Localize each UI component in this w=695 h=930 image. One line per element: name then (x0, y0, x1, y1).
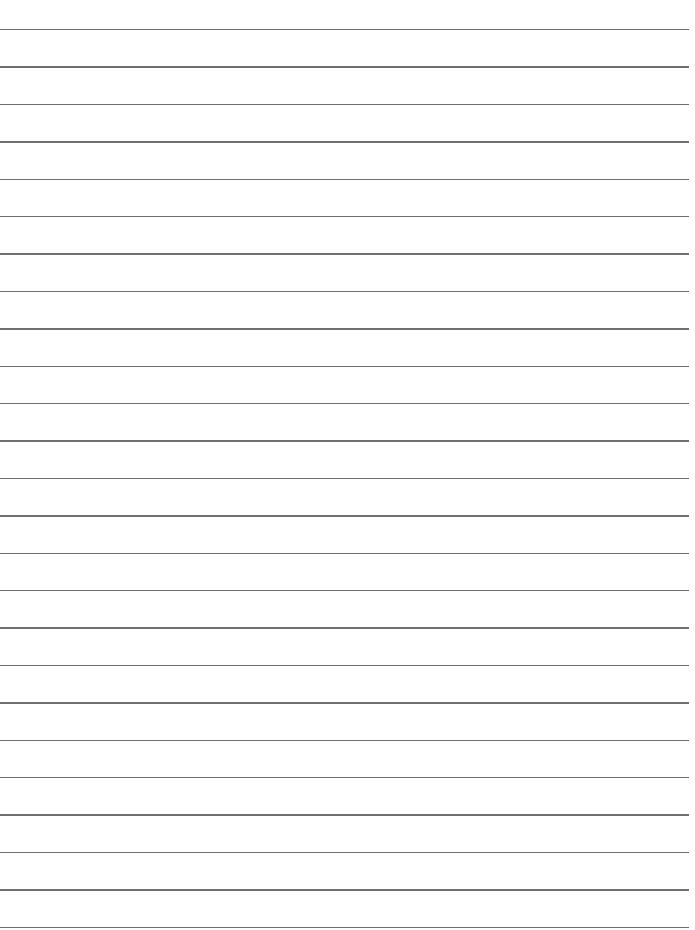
ruled-line (0, 852, 689, 853)
ruled-line (0, 179, 689, 180)
lined-paper-sheet (0, 0, 695, 930)
ruled-line (0, 665, 689, 666)
ruled-line (0, 515, 689, 516)
ruled-line (0, 627, 689, 628)
ruled-line (0, 814, 689, 815)
ruled-line (0, 366, 689, 367)
ruled-line (0, 141, 689, 142)
ruled-line (0, 328, 689, 329)
ruled-line (0, 889, 689, 890)
ruled-line (0, 104, 689, 105)
ruled-line (0, 216, 689, 217)
ruled-line (0, 291, 689, 292)
ruled-line (0, 740, 689, 741)
ruled-line (0, 590, 689, 591)
ruled-line (0, 777, 689, 778)
ruled-line (0, 66, 689, 67)
ruled-line (0, 440, 689, 441)
ruled-line (0, 478, 689, 479)
ruled-line (0, 403, 689, 404)
ruled-line (0, 702, 689, 703)
ruled-line (0, 253, 689, 254)
ruled-line (0, 927, 689, 928)
ruled-line (0, 29, 689, 30)
ruled-line (0, 553, 689, 554)
